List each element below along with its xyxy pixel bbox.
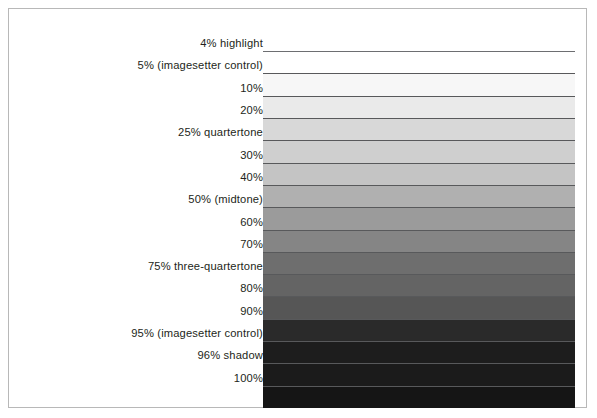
tint-swatch	[263, 118, 575, 140]
tint-swatch	[263, 296, 575, 318]
tint-row-label: 75% three-quartertone	[148, 260, 263, 272]
tint-row-label: 10%	[240, 82, 263, 94]
tint-row: 50% (midtone)	[18, 207, 595, 229]
tint-row-label: 40%	[240, 171, 263, 183]
tint-row: 60%	[18, 230, 595, 252]
tint-swatch	[263, 96, 575, 118]
tint-row: 10%	[18, 96, 595, 118]
tint-row: 5% (imagesetter control)	[18, 73, 595, 95]
tint-row-label: 50% (midtone)	[188, 193, 263, 205]
tint-row: 70%	[18, 252, 595, 274]
tint-row-label: 25% quartertone	[178, 126, 263, 138]
tint-row: 96% shadow	[18, 363, 595, 385]
tint-swatch	[263, 319, 575, 341]
tint-row: 100%	[18, 386, 595, 408]
tint-row-label: 100%	[234, 372, 263, 384]
tint-swatch	[263, 73, 575, 95]
tint-swatch	[263, 140, 575, 162]
tint-swatch	[263, 207, 575, 229]
tint-swatch	[263, 230, 575, 252]
tint-row-label: 96% shadow	[197, 349, 263, 361]
tint-row-label: 5% (imagesetter control)	[138, 59, 263, 71]
tint-swatch	[263, 51, 575, 73]
tint-row-label: 80%	[240, 282, 263, 294]
tint-row-label: 30%	[240, 149, 263, 161]
tint-swatch	[263, 252, 575, 274]
tint-row: 95% (imagesetter control)	[18, 341, 595, 363]
tint-swatch	[263, 341, 575, 363]
tint-row-label: 20%	[240, 104, 263, 116]
tint-row: 4% highlight	[18, 51, 595, 73]
tint-swatch	[263, 274, 575, 296]
tint-row-label: 70%	[240, 238, 263, 250]
tint-swatch	[263, 363, 575, 385]
tint-scale-chart: 4% highlight5% (imagesetter control)10%2…	[18, 18, 595, 416]
tint-row-label: 95% (imagesetter control)	[131, 327, 263, 339]
tint-row: 80%	[18, 296, 595, 318]
tint-row: 40%	[18, 185, 595, 207]
tint-row-label: 90%	[240, 305, 263, 317]
tint-swatch	[263, 163, 575, 185]
tint-row: 25% quartertone	[18, 140, 595, 162]
tint-scale-page: 4% highlight5% (imagesetter control)10%2…	[0, 0, 597, 418]
tint-row-label: 4% highlight	[200, 37, 263, 49]
tint-row: 30%	[18, 163, 595, 185]
tint-row: 90%	[18, 319, 595, 341]
tint-row: 75% three-quartertone	[18, 274, 595, 296]
figure-frame: 4% highlight5% (imagesetter control)10%2…	[8, 8, 587, 408]
tint-row: 20%	[18, 118, 595, 140]
tint-row-label: 60%	[240, 216, 263, 228]
tint-swatch	[263, 185, 575, 207]
tint-swatch	[263, 386, 575, 408]
